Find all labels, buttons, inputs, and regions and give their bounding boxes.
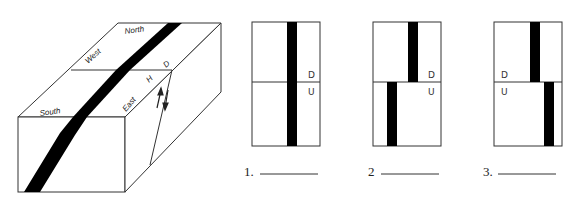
panel-3 xyxy=(494,22,562,146)
panel-1-label-d: D xyxy=(308,70,315,80)
panel-3-label-u: U xyxy=(501,87,508,97)
panel-1-bed xyxy=(287,22,297,146)
panel-2-bed-upper xyxy=(408,22,418,82)
panel-2-number: 2 xyxy=(368,164,375,179)
panel-2-label-d: D xyxy=(428,70,435,80)
panel-1-label-u: U xyxy=(308,87,315,97)
panel-2-label-u: U xyxy=(428,87,435,97)
panel-3-number: 3. xyxy=(483,164,493,179)
panel-1-number: 1. xyxy=(244,164,254,179)
panel-3-label-d: D xyxy=(501,70,508,80)
panel-2 xyxy=(373,22,441,146)
panel-2-bed-lower xyxy=(387,82,397,146)
panel-3-bed-lower xyxy=(544,82,554,146)
panel-3-bed-upper xyxy=(530,22,540,82)
fault-diagram-canvas: North West South East D H D U 1. D U 2 D… xyxy=(0,0,576,206)
panel-1 xyxy=(252,22,320,146)
panel-2-frame xyxy=(373,22,441,146)
panel-1-frame xyxy=(252,22,320,146)
